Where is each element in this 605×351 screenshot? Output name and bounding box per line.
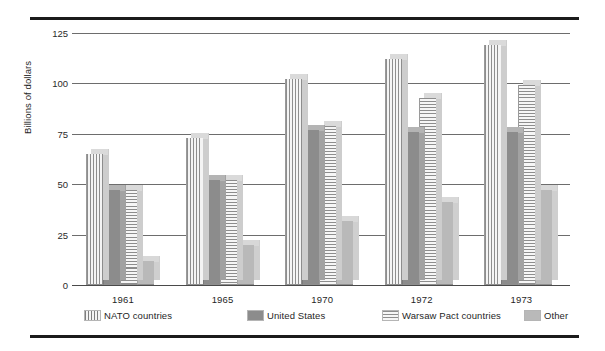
bar-group-1972: 1972: [385, 33, 459, 285]
bar-side-face: [518, 127, 524, 280]
bar-group-1961: 1961: [86, 33, 160, 285]
y-tick-label-50: 50: [34, 179, 68, 190]
bar-1965-nato-countries: [186, 138, 203, 285]
x-tick-label-1970: 1970: [285, 294, 359, 305]
plot-area: 025507510012519611965197019721973: [72, 33, 570, 285]
bar-side-face: [220, 175, 226, 280]
bar-1973-nato-countries: [484, 45, 501, 285]
bar-side-face: [137, 185, 143, 280]
bar-1961-nato-countries: [86, 154, 103, 285]
bar-side-face: [402, 54, 408, 280]
y-tick-label-100: 100: [34, 78, 68, 89]
bar-front-face: [385, 59, 402, 285]
bar-side-face: [552, 185, 558, 280]
x-tick-label-1973: 1973: [484, 294, 558, 305]
legend-label: Other: [544, 310, 568, 321]
bar-side-face: [203, 133, 209, 280]
legend-swatch-icon: [524, 310, 541, 321]
bar-side-face: [254, 240, 260, 280]
bar-side-face: [535, 80, 541, 280]
bar-1970-nato-countries: [285, 79, 302, 285]
legend-item-other[interactable]: Other: [524, 310, 568, 321]
bar-side-face: [501, 40, 507, 280]
bar-side-face: [120, 185, 126, 280]
bar-side-face: [302, 74, 308, 280]
bar-front-face: [186, 138, 203, 285]
legend-label: Warsaw Pact countries: [402, 310, 501, 321]
legend-swatch-icon: [247, 310, 264, 321]
bar-side-face: [419, 127, 425, 280]
bar-side-face: [103, 149, 109, 280]
bar-side-face: [237, 175, 243, 280]
bar-side-face: [353, 216, 359, 281]
x-tick-label-1961: 1961: [86, 294, 160, 305]
x-tick-label-1965: 1965: [186, 294, 260, 305]
legend-item-united-states[interactable]: United States: [247, 310, 325, 321]
figure: Billions of dollars 02550751001251961196…: [0, 0, 605, 351]
bar-group-1965: 1965: [186, 33, 260, 285]
bottom-rule: [30, 335, 579, 338]
chart-legend: NATO countriesUnited StatesWarsaw Pact c…: [72, 310, 572, 326]
bar-side-face: [436, 93, 442, 280]
y-tick-label-0: 0: [34, 280, 68, 291]
legend-label: United States: [267, 310, 325, 321]
x-tick-label-1972: 1972: [385, 294, 459, 305]
bar-side-face: [319, 125, 325, 280]
y-tick-label-125: 125: [34, 28, 68, 39]
legend-swatch-icon: [382, 310, 399, 321]
bar-front-face: [86, 154, 103, 285]
y-tick-label-75: 75: [34, 128, 68, 139]
bar-front-face: [285, 79, 302, 285]
bar-side-face: [336, 121, 342, 280]
gridline-0: [72, 285, 570, 286]
bar-group-1973: 1973: [484, 33, 558, 285]
bar-1972-nato-countries: [385, 59, 402, 285]
legend-item-nato-countries[interactable]: NATO countries: [84, 310, 172, 321]
legend-label: NATO countries: [104, 310, 172, 321]
bar-front-face: [484, 45, 501, 285]
bar-side-face: [453, 197, 459, 280]
legend-swatch-icon: [84, 310, 101, 321]
y-tick-label-25: 25: [34, 229, 68, 240]
legend-item-warsaw-pact-countries[interactable]: Warsaw Pact countries: [382, 310, 501, 321]
bar-group-1970: 1970: [285, 33, 359, 285]
y-axis-title: Billions of dollars: [22, 120, 33, 134]
top-rule: [30, 17, 579, 20]
